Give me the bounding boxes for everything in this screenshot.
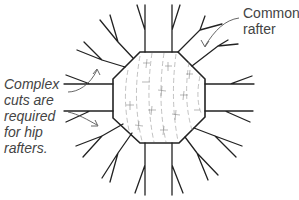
note-line: cuts are: [4, 92, 59, 108]
note-line: for hip: [4, 124, 59, 140]
label-line: rafter: [243, 21, 299, 37]
note-line: Complex: [4, 76, 59, 92]
note-line: rafters.: [4, 140, 59, 156]
note-line: required: [4, 108, 59, 124]
common-rafter-label: Common rafter: [243, 5, 299, 37]
hip-rafter-note: Complex cuts are required for hip rafter…: [4, 76, 59, 156]
label-line: Common: [243, 5, 299, 21]
octagon-hub: [113, 52, 205, 143]
